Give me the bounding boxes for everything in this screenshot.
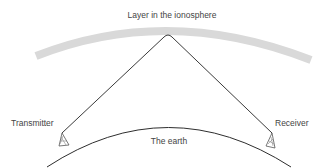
earth-surface — [47, 128, 291, 168]
earth-label: The earth — [151, 136, 188, 146]
receiver-antenna-icon — [266, 133, 275, 148]
ionosphere-label: Layer in the ionosphere — [128, 10, 217, 20]
ionosphere-layer — [36, 31, 311, 60]
transmitter-antenna-icon — [59, 133, 69, 146]
signal-ray — [62, 35, 272, 133]
receiver-label: Receiver — [275, 118, 309, 128]
transmitter-label: Transmitter — [11, 118, 54, 128]
sky-wave-diagram: Layer in the ionosphere The earth Transm… — [0, 0, 328, 168]
